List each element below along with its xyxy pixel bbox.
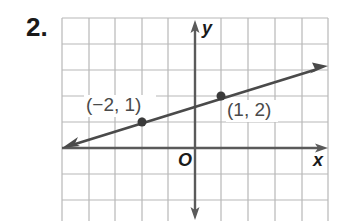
point-label-neg2-1: (−2, 1): [86, 94, 141, 115]
origin-label: O: [178, 150, 192, 170]
point-neg2-1: [138, 118, 147, 127]
point-1-2: [217, 92, 226, 101]
y-axis: [191, 20, 200, 220]
point-label-1-2: (1, 2): [227, 99, 271, 120]
coordinate-graph: y x O (−2, 1) (1, 2): [0, 0, 341, 221]
y-axis-label: y: [201, 18, 213, 38]
line-right-arrow-icon: [310, 63, 328, 74]
x-axis-label: x: [312, 150, 324, 170]
